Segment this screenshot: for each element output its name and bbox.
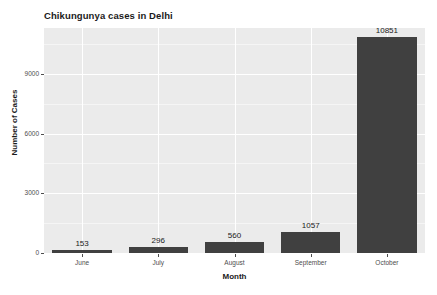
x-tick-label: September	[273, 259, 349, 266]
y-tick-mark	[41, 253, 44, 254]
x-tick-mark	[82, 254, 83, 257]
y-tick-mark	[41, 193, 44, 194]
x-axis-title: Month	[44, 272, 425, 281]
y-tick-label: 6000	[25, 130, 39, 137]
bar-value-label: 1057	[273, 221, 349, 230]
x-tick-label: October	[349, 259, 425, 266]
x-tick-label: July	[120, 259, 196, 266]
bars-layer	[44, 28, 425, 253]
bar-value-label: 10851	[349, 26, 425, 35]
plot-panel	[44, 28, 425, 253]
x-tick-mark	[235, 254, 236, 257]
chart-title: Chikungunya cases in Delhi	[44, 10, 173, 21]
y-tick-label: 3000	[25, 189, 39, 196]
y-tick-mark	[41, 134, 44, 135]
x-tick-mark	[158, 254, 159, 257]
bar	[205, 242, 264, 253]
bar-chart: Chikungunya cases in Delhi 0300060009000…	[0, 0, 437, 295]
y-tick-label: 0	[35, 249, 39, 256]
y-tick-label: 9000	[25, 70, 39, 77]
x-tick-mark	[387, 254, 388, 257]
bar	[357, 37, 416, 253]
y-axis-title: Number of Cases	[10, 83, 19, 163]
bar	[52, 250, 111, 253]
bar-value-label: 296	[120, 236, 196, 245]
x-tick-mark	[311, 254, 312, 257]
x-tick-label: August	[196, 259, 272, 266]
bar	[281, 232, 340, 253]
bar-value-label: 153	[44, 239, 120, 248]
bar-value-label: 560	[196, 231, 272, 240]
bar	[129, 247, 188, 253]
x-tick-label: June	[44, 259, 120, 266]
y-tick-mark	[41, 74, 44, 75]
